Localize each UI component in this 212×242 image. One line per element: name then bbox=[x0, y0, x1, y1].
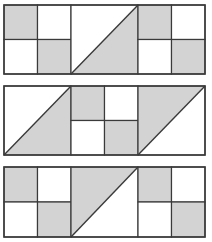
panel-3-diagonal bbox=[138, 86, 205, 155]
cell-bottom-right bbox=[172, 40, 206, 75]
cell-top-left bbox=[71, 86, 105, 121]
cell-bottom-right bbox=[38, 202, 72, 237]
cell-bottom-right bbox=[172, 202, 206, 237]
panel-1-checker bbox=[4, 167, 71, 237]
panel-3-checker bbox=[138, 167, 205, 237]
cell-top-left bbox=[4, 5, 38, 40]
row-2 bbox=[4, 86, 205, 155]
panel-2-diagonal bbox=[71, 167, 138, 237]
cell-bottom-right bbox=[38, 40, 72, 75]
cell-bottom-left bbox=[4, 40, 38, 75]
cell-top-right bbox=[38, 167, 72, 202]
panel-1-diagonal bbox=[4, 86, 71, 155]
row-1 bbox=[4, 5, 205, 74]
cell-top-left bbox=[138, 167, 172, 202]
cell-top-right bbox=[105, 86, 139, 121]
cell-bottom-left bbox=[71, 121, 105, 156]
cell-bottom-left bbox=[138, 40, 172, 75]
panel-2-diagonal bbox=[71, 5, 138, 74]
cell-bottom-left bbox=[138, 202, 172, 237]
cell-top-right bbox=[172, 167, 206, 202]
cell-top-right bbox=[38, 5, 72, 40]
cell-bottom-right bbox=[105, 121, 139, 156]
panel-1-checker bbox=[4, 5, 71, 74]
cell-top-left bbox=[138, 5, 172, 40]
cell-bottom-left bbox=[4, 202, 38, 237]
cell-top-left bbox=[4, 167, 38, 202]
pattern-figure bbox=[0, 0, 212, 242]
panel-3-checker bbox=[138, 5, 205, 74]
panel-2-checker bbox=[71, 86, 138, 155]
row-3 bbox=[4, 167, 205, 237]
cell-top-right bbox=[172, 5, 206, 40]
